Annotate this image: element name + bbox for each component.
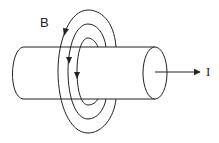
conductor-end-face	[143, 47, 167, 99]
arrowhead-inner	[74, 72, 80, 79]
arrowhead-middle	[66, 57, 72, 64]
field-label-b: B	[40, 15, 49, 30]
current-label-i: I	[206, 64, 210, 80]
field-loop-inner	[77, 38, 98, 105]
field-loop-outer-top	[58, 10, 116, 133]
conductor-body	[12, 47, 155, 99]
diagram-canvas	[0, 0, 219, 143]
arrowhead-outer	[63, 28, 69, 36]
